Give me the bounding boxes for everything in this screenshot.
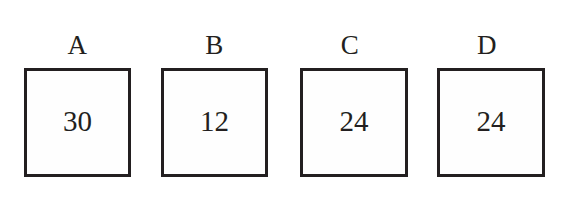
box-group-d: D24	[0, 0, 563, 217]
box-value-d: 24	[440, 105, 542, 137]
box-square-d: 24	[437, 68, 545, 177]
box-label-d: D	[433, 30, 541, 60]
boxes-figure: A30B12C24D24	[0, 0, 563, 217]
